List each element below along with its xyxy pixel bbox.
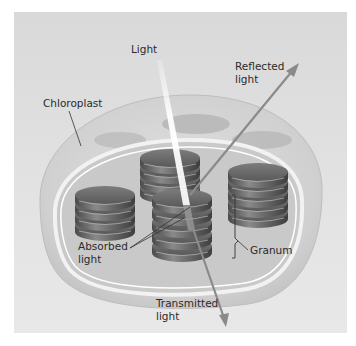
chloroplast-diagram: [0, 0, 356, 346]
chloroplast-label: Chloroplast: [43, 97, 102, 110]
granum-stack-front: [152, 189, 212, 262]
light-label: Light: [131, 43, 157, 56]
granum-label: Granum: [250, 244, 292, 257]
granum-stack-back-right: [228, 163, 288, 228]
reflected-light-label: Reflected light: [235, 60, 284, 86]
absorbed-light-label: Absorbed light: [78, 240, 128, 266]
granum-stack-left: [75, 186, 135, 241]
transmitted-light-label: Transmitted light: [156, 297, 218, 323]
